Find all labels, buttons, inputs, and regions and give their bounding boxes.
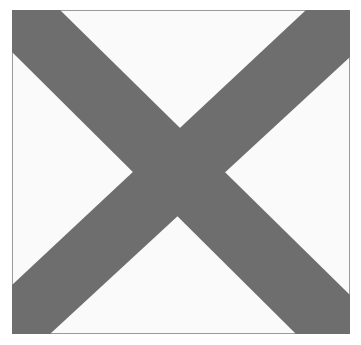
cross-graphic — [12, 10, 350, 334]
saltire-figure — [12, 10, 350, 334]
